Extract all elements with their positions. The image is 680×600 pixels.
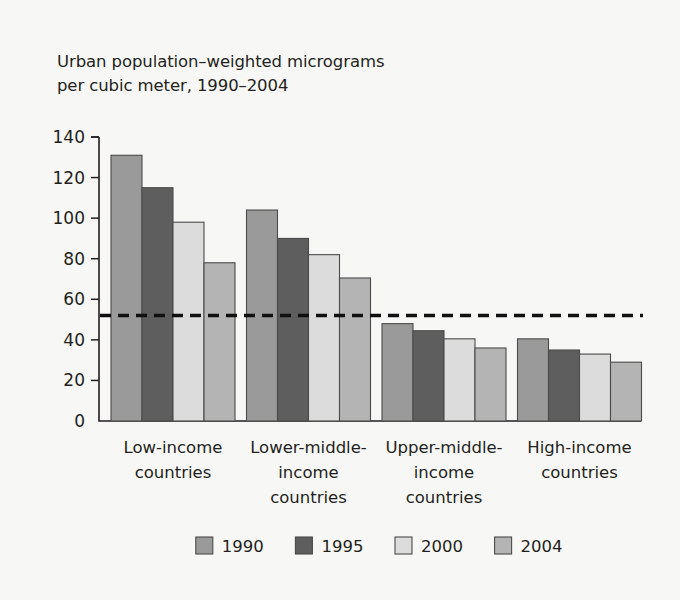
x-category-label: Lower-middle- [250, 438, 367, 457]
x-category-label: Upper-middle- [385, 438, 502, 457]
legend-swatch [295, 537, 312, 554]
x-category-label: countries [406, 488, 483, 507]
y-tick-label: 100 [53, 208, 85, 228]
y-tick-label: 60 [63, 289, 85, 309]
bar [111, 155, 142, 421]
chart-figure: Urban population–weighted micrograms per… [0, 0, 680, 600]
bar [142, 188, 173, 421]
legend-swatch [196, 537, 213, 554]
legend-label: 1990 [222, 537, 264, 556]
bar [309, 255, 340, 421]
y-tick-label: 20 [63, 370, 85, 390]
bar [413, 331, 444, 421]
bar [278, 238, 309, 421]
x-category-label: income [278, 463, 338, 482]
legend-swatch [495, 537, 512, 554]
legend-label: 1995 [321, 537, 363, 556]
bar [340, 278, 371, 421]
x-category-label: income [414, 463, 474, 482]
x-category-label: countries [135, 463, 212, 482]
x-category-label: High-income [527, 438, 631, 457]
legend-label: 2000 [421, 537, 463, 556]
y-tick-label: 140 [53, 127, 85, 147]
legend-label: 2004 [521, 537, 563, 556]
bar [580, 354, 611, 421]
bar [611, 362, 642, 421]
y-tick-label: 0 [74, 411, 85, 431]
bar [173, 222, 204, 421]
x-category-label: Low-income [124, 438, 223, 457]
y-tick-label: 40 [63, 330, 85, 350]
bar-chart-plot: 020406080100120140Low-incomecountriesLow… [0, 0, 680, 600]
legend-swatch [395, 537, 412, 554]
bar [444, 339, 475, 421]
bar [382, 324, 413, 421]
bar [518, 339, 549, 421]
x-category-label: countries [270, 488, 347, 507]
bar [549, 350, 580, 421]
bar [475, 348, 506, 421]
bar [204, 263, 235, 421]
x-category-label: countries [541, 463, 618, 482]
y-tick-label: 120 [53, 168, 85, 188]
y-tick-label: 80 [63, 249, 85, 269]
